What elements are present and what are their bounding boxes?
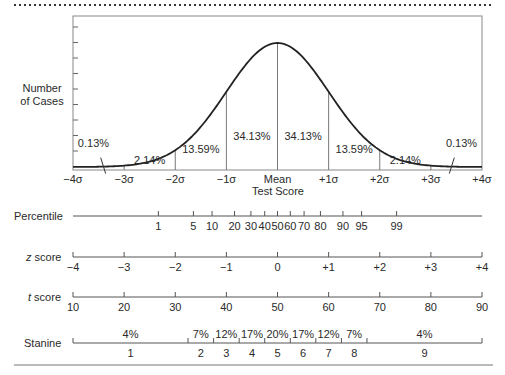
- normal-distribution-chart: 0.13%2.14%13.59%34.13%34.13%13.59%2.14%0…: [0, 0, 505, 375]
- stanine-number-label: 3: [223, 347, 229, 359]
- stanine-number-label: 2: [198, 347, 204, 359]
- stanine-number-label: 1: [127, 347, 133, 359]
- stanine-number-label: 5: [274, 347, 280, 359]
- percentile-scale: 151020304050607080909599: [73, 211, 482, 232]
- percentile-tick-label: 40: [259, 220, 271, 232]
- x-axis-label: Test Score: [252, 185, 304, 197]
- scale-tick-label: 0: [274, 261, 280, 273]
- scale-tick-label: 70: [374, 301, 386, 313]
- stanine-scale-label: Stanine: [24, 337, 61, 349]
- x-tick-label: +1σ: [319, 173, 339, 185]
- percentile-tick-label: 99: [390, 220, 402, 232]
- stanine-percent-label: 17%: [241, 328, 263, 340]
- stanine-percent-label: 20%: [266, 328, 288, 340]
- x-tick-label: +4σ: [472, 173, 492, 185]
- percentile-tick-label: 50: [271, 220, 283, 232]
- area-label: 0.13%: [446, 137, 477, 149]
- x-axis-tick-labels: −4σ−3σ−2σ−1σMean+1σ+2σ+3σ+4σ: [63, 173, 492, 185]
- scale-tick-label: 50: [271, 301, 283, 313]
- stanine-percent-label: 17%: [292, 328, 314, 340]
- percentile-tick-label: 90: [337, 220, 349, 232]
- percentile-tick-label: 1: [155, 220, 161, 232]
- x-tick-label: +2σ: [370, 173, 390, 185]
- percentile-tick-label: 20: [228, 220, 240, 232]
- scale-tick-label: −4: [67, 261, 80, 273]
- z-score-scale: −4−3−2−10+1+2+3+4: [67, 252, 489, 273]
- y-axis-label-line1: Number: [22, 82, 61, 94]
- percentile-scale-label: Percentile: [14, 210, 63, 222]
- scale-tick-label: −2: [169, 261, 182, 273]
- x-tick-label: +3σ: [421, 173, 441, 185]
- percentile-tick-label: 10: [206, 220, 218, 232]
- stanine-number-label: 6: [300, 347, 306, 359]
- scale-tick-label: 90: [476, 301, 488, 313]
- stanine-percent-label: 7%: [193, 328, 209, 340]
- area-label: 0.13%: [78, 137, 109, 149]
- area-label: 13.59%: [336, 143, 374, 155]
- stanine-percent-label: 4%: [417, 328, 433, 340]
- scale-tick-label: −1: [220, 261, 233, 273]
- stanine-percent-label: 12%: [318, 328, 340, 340]
- sigma-divider-lines: [124, 43, 431, 170]
- x-tick-label: −4σ: [63, 173, 83, 185]
- scale-tick-label: −3: [118, 261, 131, 273]
- percentile-tick-label: 60: [284, 220, 296, 232]
- stanine-scale: 4%17%212%317%420%517%612%77%84%9: [73, 328, 482, 359]
- x-tick-label: Mean: [264, 173, 292, 185]
- stanine-percent-label: 12%: [215, 328, 237, 340]
- x-tick-label: −2σ: [166, 173, 186, 185]
- z-score-scale-label: z score: [25, 251, 61, 263]
- percentile-tick-label: 30: [245, 220, 257, 232]
- y-axis-label-line2: of Cases: [20, 95, 64, 107]
- x-tick-label: −1σ: [217, 173, 237, 185]
- percentile-tick-label: 70: [298, 220, 310, 232]
- scale-tick-label: +3: [425, 261, 438, 273]
- scale-tick-label: 80: [425, 301, 437, 313]
- stanine-percent-label: 4%: [123, 328, 139, 340]
- area-label: 2.14%: [134, 154, 165, 166]
- scale-tick-label: 10: [67, 301, 79, 313]
- stanine-percent-label: 7%: [346, 328, 362, 340]
- stanine-number-label: 7: [326, 347, 332, 359]
- t-score-scale-label: t score: [28, 291, 61, 303]
- percentile-tick-label: 95: [355, 220, 367, 232]
- area-label: 34.13%: [284, 130, 322, 142]
- scale-tick-label: +1: [322, 261, 335, 273]
- scale-tick-label: 20: [118, 301, 130, 313]
- area-label: 2.14%: [390, 154, 421, 166]
- scale-tick-label: 60: [323, 301, 335, 313]
- t-score-scale: 102030405060708090: [67, 292, 488, 313]
- stanine-number-label: 8: [351, 347, 357, 359]
- percentile-tick-label: 80: [314, 220, 326, 232]
- scale-tick-label: 30: [169, 301, 181, 313]
- area-label: 34.13%: [233, 130, 271, 142]
- percentile-tick-label: 5: [190, 220, 196, 232]
- area-label: 13.59%: [182, 143, 220, 155]
- scale-tick-label: +2: [373, 261, 386, 273]
- scale-tick-label: +4: [476, 261, 489, 273]
- stanine-number-label: 4: [249, 347, 255, 359]
- stanine-number-label: 9: [421, 347, 427, 359]
- x-tick-label: −3σ: [114, 173, 134, 185]
- scale-tick-label: 40: [220, 301, 232, 313]
